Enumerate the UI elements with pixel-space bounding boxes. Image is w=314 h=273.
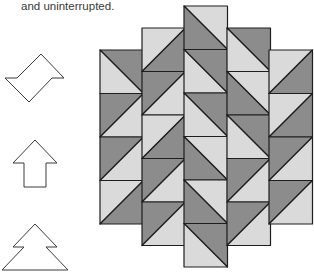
quilt-square — [269, 181, 313, 225]
quilt-square — [227, 28, 271, 72]
up-arrow-shape — [13, 140, 57, 187]
quilt-square — [227, 159, 271, 203]
tree-shape — [2, 224, 68, 270]
quilt-square — [269, 50, 313, 94]
quilt-square — [184, 6, 228, 50]
quilt-square — [184, 50, 228, 94]
quilt-square — [227, 202, 271, 246]
quilt-square — [100, 137, 144, 181]
quilt-square — [142, 28, 186, 72]
quilt-square — [100, 50, 144, 94]
quilt-square — [184, 180, 228, 224]
quilt-square — [142, 115, 186, 159]
quilt-pattern — [100, 6, 313, 267]
quilt-square — [184, 224, 228, 268]
quilt-square — [142, 72, 186, 116]
quilt-square — [184, 137, 228, 181]
quilt-square — [269, 137, 313, 181]
quilt-square — [269, 94, 313, 138]
zigzag-parallelogram-shape — [5, 54, 64, 102]
quilt-square — [100, 94, 144, 138]
quilt-square — [142, 159, 186, 203]
outline-shapes — [2, 54, 68, 270]
quilt-square — [227, 72, 271, 116]
quilt-square — [184, 93, 228, 137]
quilt-square — [100, 181, 144, 225]
quilt-square — [227, 115, 271, 159]
quilt-square — [142, 202, 186, 246]
quilt-figure — [0, 0, 314, 273]
